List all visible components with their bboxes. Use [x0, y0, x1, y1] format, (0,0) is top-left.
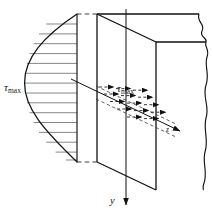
tau-max-right-label: τmax — [117, 83, 134, 95]
tau-subscript-right: max — [121, 87, 134, 96]
tau-subscript-left: max — [8, 86, 21, 95]
stress-profile-hatching — [25, 24, 77, 160]
profile-projection-dashes — [77, 14, 97, 162]
z-axis-label: z — [166, 126, 169, 134]
shear-arrow-row — [117, 109, 166, 112]
tau-max-left-label: τmax — [4, 82, 21, 94]
figure-canvas — [0, 0, 213, 216]
parabolic-stress-curve — [25, 14, 77, 162]
shear-stress-figure: τmax τmax y z — [0, 0, 213, 216]
shear-band-rails — [96, 86, 176, 137]
y-axis-label: y — [110, 196, 115, 207]
broken-end-wavy-edge — [198, 14, 207, 190]
shear-arrow-band — [96, 86, 176, 137]
